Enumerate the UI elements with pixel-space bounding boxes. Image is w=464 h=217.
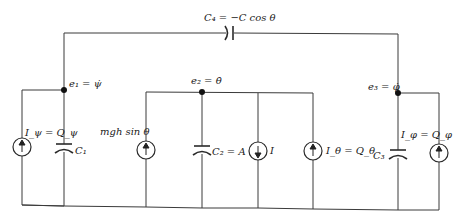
node-e1-dot [61,87,67,93]
label-c4: C₄ = −C cos θ [204,13,276,23]
label-node-e2: e₂ = θ̇ [191,76,222,86]
capacitor-c2-icon [193,146,211,155]
current-source-itheta-icon [304,142,322,160]
label-c3: C₃ [373,151,385,161]
label-itheta-source: I_θ = Q_θ [326,146,375,156]
ground-rail [22,205,439,210]
current-source-mgh-icon [137,141,155,159]
capacitor-c3-icon [389,150,407,159]
label-i-source: I [270,146,274,156]
capacitor-c1-icon [55,144,73,153]
current-source-i-icon [249,142,267,160]
label-c1: C₁ [75,146,87,156]
current-source-ipsi-icon [13,138,31,156]
label-node-e3: e₃ = φ̇ [368,82,400,92]
middle-top-wire [146,92,313,93]
node-e2-dot [199,89,205,95]
label-iphi-source: I_φ = Q_φ [401,130,452,140]
current-source-iphi-icon [430,144,448,162]
label-node-e1: e₁ = ψ̇ [69,79,102,89]
label-c2: C₂ = A [212,147,246,157]
circuit-diagram [0,0,464,217]
label-mgh-source: mgh sin θ [100,127,149,137]
label-ipsi-source: I_ψ = Q_ψ [25,128,78,138]
